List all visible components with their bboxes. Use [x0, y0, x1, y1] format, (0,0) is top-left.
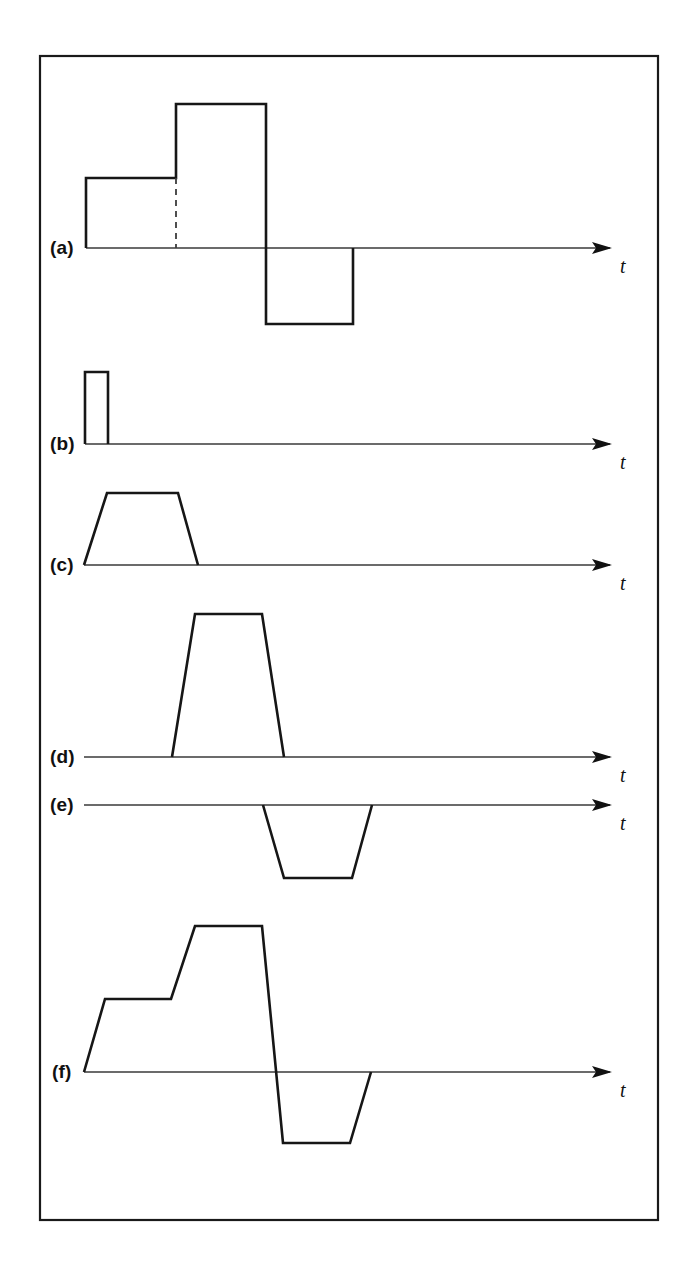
- panel-label-d: (d): [50, 746, 75, 767]
- axis-label-b: t: [620, 451, 626, 473]
- waveform-figure-svg: (a) t (b) t (c) t (d) t: [0, 0, 690, 1269]
- waveform-b: [85, 372, 108, 444]
- figure-container: (a) t (b) t (c) t (d) t: [0, 0, 690, 1269]
- waveform-e: [263, 805, 372, 878]
- waveform-f: [84, 926, 371, 1143]
- panel-e: (e) t: [50, 794, 626, 878]
- panel-d: (d) t: [50, 614, 626, 786]
- panel-f: (f) t: [52, 926, 626, 1143]
- axis-label-a: t: [620, 255, 626, 277]
- panel-c: (c) t: [50, 493, 626, 594]
- panel-label-c: (c): [50, 554, 74, 575]
- waveform-c: [84, 493, 198, 565]
- panel-label-a: (a): [50, 237, 74, 258]
- panel-b: (b) t: [50, 372, 626, 473]
- axis-label-d: t: [620, 764, 626, 786]
- axis-label-c: t: [620, 572, 626, 594]
- panel-a: (a) t: [50, 104, 626, 324]
- axis-label-f: t: [620, 1079, 626, 1101]
- figure-border: [40, 56, 658, 1220]
- waveform-a: [86, 104, 353, 324]
- panel-label-f: (f): [52, 1061, 72, 1082]
- waveform-d: [172, 614, 284, 757]
- panel-label-e: (e): [50, 794, 74, 815]
- axis-label-e: t: [620, 812, 626, 834]
- panel-label-b: (b): [50, 433, 75, 454]
